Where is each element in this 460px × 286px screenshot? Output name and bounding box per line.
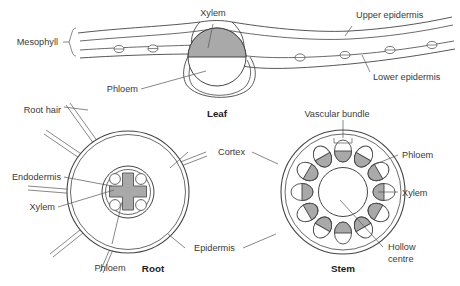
stem-hollow-centre xyxy=(319,168,368,217)
stem-title: Stem xyxy=(331,263,355,274)
leaf-diagram: Mesophyll Xylem Phloem Upper epidermis L… xyxy=(17,8,455,119)
leaf-label-phloem: Phloem xyxy=(107,84,138,94)
leaf-label-mesophyll: Mesophyll xyxy=(17,37,58,47)
root-phloem-cell xyxy=(110,200,121,211)
stem-label-hollow-centre-2: centre xyxy=(388,254,414,264)
stem-epidermis-leader xyxy=(243,234,276,248)
root-epidermis-leader xyxy=(168,234,185,248)
leaf-label-lower-epidermis: Lower epidermis xyxy=(373,72,441,82)
leaf-title: Leaf xyxy=(207,108,228,119)
leaf-stoma xyxy=(385,46,395,53)
root-label-endodermis: Endodermis xyxy=(12,172,61,182)
mesophyll-brace xyxy=(63,28,76,56)
root-label-phloem: Phloem xyxy=(94,263,125,273)
leaf-stoma xyxy=(427,41,437,48)
shared-label-cortex: Cortex xyxy=(218,147,245,157)
stem-vascular-bundle xyxy=(335,222,352,244)
root-label-root-hair: Root hair xyxy=(24,105,61,115)
root-hair-leader xyxy=(64,107,88,110)
root-phloem-cell xyxy=(136,200,147,211)
leaf-stoma xyxy=(114,45,124,52)
root-diagram: Root hair Endodermis Xylem Phloem Root xyxy=(12,103,207,274)
stem-label-xylem: Xylem xyxy=(402,188,428,198)
leaf-stoma xyxy=(340,51,350,58)
stem-diagram: Vascular bundle Phloem Xylem Hollow cent… xyxy=(281,109,433,274)
plant-tissue-diagram: Mesophyll Xylem Phloem Upper epidermis L… xyxy=(0,0,460,286)
stem-label-vascular-bundle: Vascular bundle xyxy=(304,109,369,119)
leaf-lower-epidermis-outer xyxy=(80,49,455,68)
root-title: Root xyxy=(142,263,165,274)
root-phloem-cell xyxy=(110,174,121,185)
root-label-xylem: Xylem xyxy=(29,202,55,212)
leaf-lower-epidermis-leader xyxy=(362,55,370,72)
stem-label-phloem: Phloem xyxy=(402,150,433,160)
leaf-stoma xyxy=(295,54,305,61)
leaf-xylem-region xyxy=(188,28,246,57)
leaf-stoma xyxy=(148,45,158,52)
stem-vascular-bundle xyxy=(291,184,313,201)
root-phloem-cell xyxy=(136,174,147,185)
diagram-canvas: Mesophyll Xylem Phloem Upper epidermis L… xyxy=(0,0,460,286)
stem-label-hollow-centre-1: Hollow xyxy=(388,242,416,252)
leaf-stomata-group xyxy=(114,41,437,61)
leaf-phloem-leader xyxy=(141,71,206,89)
leaf-label-xylem: Xylem xyxy=(200,8,226,18)
stem-cortex-leader xyxy=(252,152,278,164)
leaf-label-upper-epidermis: Upper epidermis xyxy=(356,10,424,20)
shared-label-epidermis: Epidermis xyxy=(194,243,235,253)
